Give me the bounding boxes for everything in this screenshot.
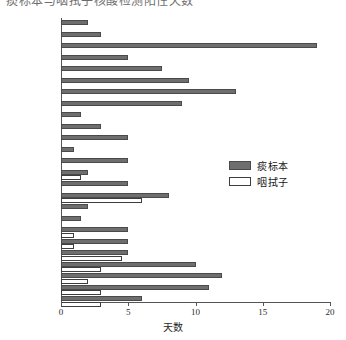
bar-swab <box>61 233 74 238</box>
bar-swab <box>61 302 101 307</box>
bar-sputum <box>61 250 128 255</box>
bar-sputum <box>61 227 128 232</box>
bar-swab <box>61 175 81 180</box>
legend-label-swab: 咽拭子 <box>257 174 289 189</box>
bar-sputum <box>61 285 209 290</box>
x-tick-mark <box>128 302 129 306</box>
x-tick-label: 0 <box>59 307 64 317</box>
bar-sputum <box>61 193 169 198</box>
bar-sputum <box>61 101 182 106</box>
bar-sputum <box>61 66 162 71</box>
x-tick-mark <box>196 302 197 306</box>
bar-swab <box>61 290 101 295</box>
hollow-square-swatch-icon <box>229 177 251 186</box>
bar-sputum <box>61 181 128 186</box>
x-tick-mark <box>330 302 331 306</box>
x-tick-mark <box>263 302 264 306</box>
bar-sputum <box>61 78 189 83</box>
bar-sputum <box>61 112 81 117</box>
bar-sputum <box>61 43 317 48</box>
bar-swab <box>61 279 88 284</box>
bar-sputum <box>61 239 128 244</box>
bar-sputum <box>61 135 128 140</box>
bar-sputum <box>61 296 142 301</box>
bar-sputum <box>61 158 128 163</box>
bar-swab <box>61 198 142 203</box>
bar-swab <box>61 256 122 261</box>
bar-sputum <box>61 124 101 129</box>
x-tick-label: 20 <box>326 307 335 317</box>
bar-sputum <box>61 216 81 221</box>
filled-square-swatch-icon <box>229 161 251 170</box>
bar-sputum <box>61 55 128 60</box>
x-tick-label: 15 <box>258 307 267 317</box>
chart-root: 痰标本与咽拭子核酸检测阳性天数 05101520 天数 痰标本 咽拭子 <box>0 0 346 340</box>
bar-sputum <box>61 32 101 37</box>
x-axis-label: 天数 <box>0 319 346 334</box>
bar-sputum <box>61 147 74 152</box>
bar-sputum <box>61 89 236 94</box>
legend-label-sputum: 痰标本 <box>257 158 289 173</box>
chart-legend: 痰标本 咽拭子 <box>229 159 321 191</box>
x-tick-label: 10 <box>191 307 200 317</box>
legend-item-sputum: 痰标本 <box>229 159 321 172</box>
bar-sputum <box>61 170 88 175</box>
bar-sputum <box>61 262 196 267</box>
bar-swab <box>61 267 101 272</box>
bar-sputum <box>61 273 222 278</box>
bar-swab <box>61 244 74 249</box>
x-tick-label: 5 <box>126 307 131 317</box>
legend-item-swab: 咽拭子 <box>229 175 321 188</box>
bar-sputum <box>61 204 88 209</box>
bar-sputum <box>61 20 88 25</box>
x-tick-mark <box>61 302 62 306</box>
